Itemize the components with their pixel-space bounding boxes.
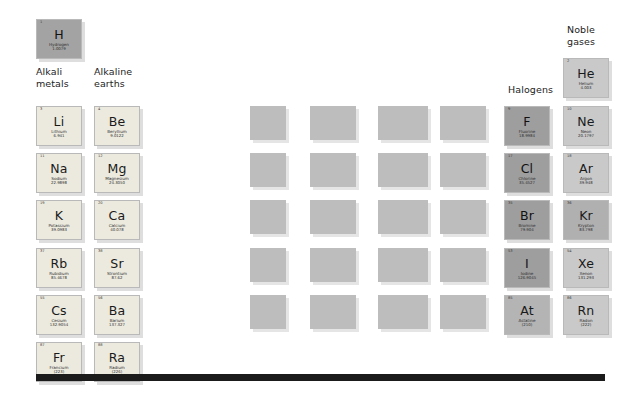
bottom-divider-bar bbox=[36, 374, 605, 381]
atomic-weight: 126.9045 bbox=[518, 276, 537, 281]
atomic-weight: 6.941 bbox=[53, 134, 64, 139]
atomic-number: 18 bbox=[567, 155, 572, 159]
blank-element-block bbox=[250, 248, 286, 282]
element-symbol: F bbox=[523, 115, 530, 128]
atomic-number: 10 bbox=[567, 108, 572, 112]
atomic-weight: 131.293 bbox=[578, 276, 594, 281]
blank-element-block bbox=[440, 295, 486, 329]
element-symbol: At bbox=[520, 304, 534, 317]
atomic-number: 38 bbox=[98, 250, 103, 254]
blank-element-block bbox=[440, 153, 486, 187]
blank-element-block bbox=[440, 248, 486, 282]
element-cell-sr[interactable]: 38SrStrontium87.62 bbox=[94, 248, 140, 288]
element-cell-ne[interactable]: 10NeNeon20.1797 bbox=[563, 106, 609, 146]
element-symbol: Ca bbox=[109, 209, 126, 222]
element-cell-cl[interactable]: 17ClChlorine35.4527 bbox=[504, 153, 550, 193]
atomic-number: 55 bbox=[40, 297, 45, 301]
element-cell-rn[interactable]: 86RnRadon(222) bbox=[563, 295, 609, 335]
element-symbol: I bbox=[525, 257, 529, 270]
element-cell-li[interactable]: 3LiLithium6.941 bbox=[36, 106, 82, 146]
element-symbol: H bbox=[54, 28, 64, 41]
element-symbol: K bbox=[55, 209, 63, 222]
element-cell-cs[interactable]: 55CsCesium132.9054 bbox=[36, 295, 82, 335]
element-symbol: Na bbox=[50, 162, 67, 175]
atomic-number: 35 bbox=[508, 202, 513, 206]
element-cell-kr[interactable]: 36KrKrypton83.798 bbox=[563, 200, 609, 240]
atomic-weight: 85.4678 bbox=[51, 276, 67, 281]
element-symbol: Ba bbox=[109, 304, 126, 317]
atomic-number: 19 bbox=[40, 202, 45, 206]
atomic-number: 53 bbox=[508, 250, 513, 254]
atomic-number: 1 bbox=[40, 21, 42, 25]
element-symbol: Ra bbox=[109, 351, 125, 364]
atomic-number: 86 bbox=[567, 297, 572, 301]
element-symbol: Rb bbox=[50, 257, 67, 270]
atomic-weight: 132.9054 bbox=[50, 323, 69, 328]
atomic-weight: 4.003 bbox=[580, 86, 591, 91]
atomic-weight: 24.3050 bbox=[109, 181, 125, 186]
element-cell-he[interactable]: 2HeHelium4.003 bbox=[563, 58, 609, 98]
element-cell-be[interactable]: 4BeBeryllium9.0122 bbox=[94, 106, 140, 146]
element-cell-rb[interactable]: 37RbRubidium85.4678 bbox=[36, 248, 82, 288]
atomic-number: 2 bbox=[567, 60, 569, 64]
atomic-number: 87 bbox=[40, 344, 45, 348]
blank-element-block bbox=[250, 106, 286, 140]
element-symbol: Fr bbox=[53, 351, 65, 364]
atomic-number: 20 bbox=[98, 202, 103, 206]
atomic-number: 11 bbox=[40, 155, 45, 159]
blank-element-block bbox=[378, 153, 428, 187]
atomic-number: 4 bbox=[98, 108, 100, 112]
element-cell-ca[interactable]: 20CaCalcium40.078 bbox=[94, 200, 140, 240]
atomic-weight: 137.327 bbox=[109, 323, 125, 328]
element-cell-f[interactable]: 9FFluorine18.9984 bbox=[504, 106, 550, 146]
atomic-weight: (210) bbox=[522, 323, 532, 328]
blank-element-block bbox=[440, 106, 486, 140]
element-symbol: Rn bbox=[577, 304, 594, 317]
element-cell-i[interactable]: 53IIodine126.9045 bbox=[504, 248, 550, 288]
blank-element-block bbox=[310, 106, 356, 140]
blank-element-block bbox=[310, 200, 356, 234]
atomic-weight: 9.0122 bbox=[110, 134, 124, 139]
element-symbol: Cs bbox=[51, 304, 67, 317]
group-label-halogens: Halogens bbox=[508, 84, 553, 96]
blank-element-block bbox=[378, 248, 428, 282]
element-symbol: He bbox=[577, 67, 595, 80]
atomic-number: 54 bbox=[567, 250, 572, 254]
atomic-weight: 22.9898 bbox=[51, 181, 67, 186]
element-cell-br[interactable]: 35BrBromine79.904 bbox=[504, 200, 550, 240]
atomic-weight: 87.62 bbox=[111, 276, 122, 281]
atomic-number: 12 bbox=[98, 155, 103, 159]
element-cell-xe[interactable]: 54XeXenon131.293 bbox=[563, 248, 609, 288]
atomic-number: 88 bbox=[98, 344, 103, 348]
atomic-weight: 18.9984 bbox=[519, 134, 535, 139]
element-cell-na[interactable]: 11NaSodium22.9898 bbox=[36, 153, 82, 193]
blank-element-block bbox=[310, 295, 356, 329]
blank-element-block bbox=[378, 295, 428, 329]
blank-element-block bbox=[310, 248, 356, 282]
element-cell-at[interactable]: 85AtAstatine(210) bbox=[504, 295, 550, 335]
element-cell-k[interactable]: 19KPotassium39.0983 bbox=[36, 200, 82, 240]
atomic-weight: 79.904 bbox=[520, 228, 534, 233]
element-symbol: Li bbox=[54, 115, 65, 128]
atomic-number: 3 bbox=[40, 108, 42, 112]
atomic-number: 85 bbox=[508, 297, 513, 301]
blank-element-block bbox=[310, 153, 356, 187]
element-symbol: Ne bbox=[577, 115, 594, 128]
blank-element-block bbox=[250, 295, 286, 329]
atomic-weight: 1.0079 bbox=[52, 47, 66, 52]
atomic-weight: 83.798 bbox=[579, 228, 593, 233]
atomic-weight: (222) bbox=[581, 323, 591, 328]
blank-element-block bbox=[440, 200, 486, 234]
element-cell-ba[interactable]: 56BaBarium137.327 bbox=[94, 295, 140, 335]
atomic-number: 56 bbox=[98, 297, 103, 301]
atomic-weight: 20.1797 bbox=[578, 134, 594, 139]
element-cell-mg[interactable]: 12MgMagnesium24.3050 bbox=[94, 153, 140, 193]
blank-element-block bbox=[378, 200, 428, 234]
blank-element-block bbox=[250, 200, 286, 234]
element-cell-h[interactable]: 1HHydrogen1.0079 bbox=[36, 19, 82, 59]
element-symbol: Kr bbox=[579, 209, 593, 222]
element-cell-ar[interactable]: 18ArArgon39.948 bbox=[563, 153, 609, 193]
element-symbol: Mg bbox=[107, 162, 126, 175]
group-label-alkali-metals: Alkali metals bbox=[36, 66, 69, 90]
element-symbol: Br bbox=[520, 209, 534, 222]
